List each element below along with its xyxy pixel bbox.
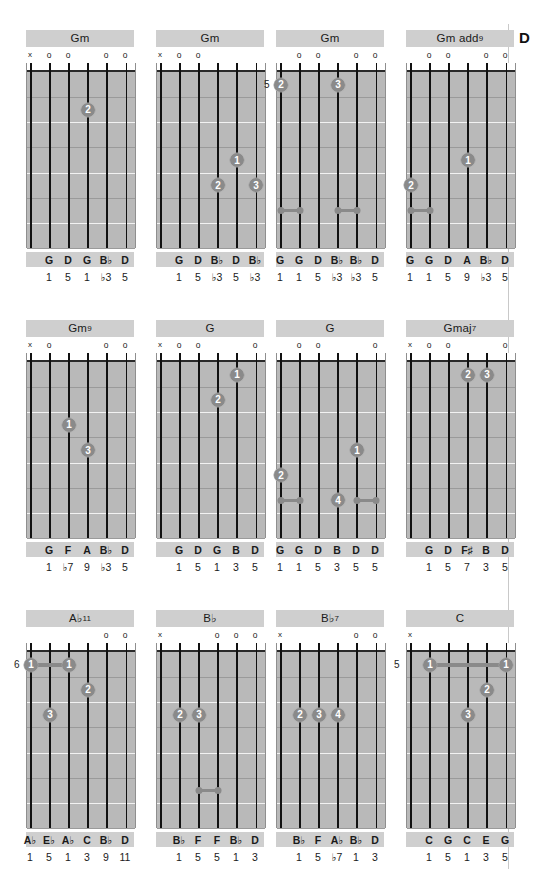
fretboard: 23 [156,643,266,828]
open-string-marker: o [503,51,508,60]
interval-degree: ♭7 [332,851,343,862]
note-name: G [175,544,183,555]
note-name-row: GDGB♭D [26,252,134,267]
note-name: G [425,254,433,265]
interval-degree: 1 [233,851,239,862]
open-string-marker: o [427,341,432,350]
guitar-string [410,63,413,248]
nut [277,63,385,72]
open-string-marker: o [316,51,321,60]
interval-degree-row: 15135 [156,559,264,574]
note-name: G [425,544,433,555]
note-name: D [371,834,379,845]
interval-degree: 5 [502,561,508,572]
finger-dot: 2 [480,682,495,697]
note-name: G [501,834,509,845]
note-name: F [315,834,321,845]
interval-degree-row: 15♭713 [276,849,384,864]
open-string-marker: o [104,51,109,60]
chord-title: Gm [26,30,134,47]
guitar-string [429,353,431,538]
guitar-string [217,63,219,248]
muted-string-marker: x [278,631,282,639]
interval-degree: 3 [84,851,90,862]
fret-line [157,727,265,728]
open-string-markers: xoo [270,630,390,643]
note-name: D [501,544,509,555]
fret-line [277,97,385,98]
guitar-string [160,63,163,248]
note-name: C [425,834,433,845]
interval-degree: 5 [315,851,321,862]
guitar-string [280,643,283,828]
interval-degree: 5 [195,561,201,572]
fret-line [157,223,265,224]
guitar-string [486,643,487,828]
interval-degree-row: 115♭3♭35 [276,269,384,284]
interval-degree: 5 [445,271,451,282]
interval-degree: 7 [464,561,470,572]
finger-dot: 1 [350,443,365,458]
fret-line [157,147,265,148]
fretboard: 12 [156,353,266,538]
interval-degree: ♭3 [101,271,112,282]
guitar-string [198,643,200,828]
note-name: B♭ [331,254,344,265]
guitar-string [506,63,507,248]
open-string-marker: o [66,51,71,60]
chord-title: Gm [156,30,264,47]
note-name: D [194,254,202,265]
note-name: B♭ [100,254,113,265]
chord-title-root: Gmaj [444,323,472,335]
nut [27,643,135,652]
barre-endpoint-dot [297,497,304,504]
fretboard: 124 [276,353,386,538]
open-string-marker: o [123,51,128,60]
interval-degree-row: 1513911 [26,849,134,864]
fret-line [277,437,385,438]
interval-degree: 3 [372,851,378,862]
guitar-string [337,353,339,538]
interval-degree: ♭3 [250,271,261,282]
open-string-marker: o [47,341,52,350]
interval-degree: 1 [214,561,220,572]
fret-line [27,173,135,174]
open-string-marker: o [446,51,451,60]
interval-degree: 1 [46,271,52,282]
fret-position-number: 5 [264,80,270,90]
fret-line [277,488,385,489]
finger-dot: 2 [274,77,289,92]
fret-line [27,198,135,199]
guitar-string [179,63,181,248]
fret-line [407,412,515,413]
open-string-marker: o [104,631,109,640]
fret-line [407,248,515,249]
barre-endpoint-dot [215,787,222,794]
note-name: D [501,254,509,265]
fret-line [157,437,265,438]
interval-degree-row: 115355 [276,559,384,574]
guitar-string [299,643,301,828]
note-name: D [314,254,322,265]
finger-dot: 1 [461,153,476,168]
guitar-string [179,643,181,828]
chord-title: Gmaj7 [406,320,514,337]
barre-endpoint-dot [278,207,285,214]
fret-line [407,223,515,224]
interval-degree: 1 [426,561,432,572]
nut [277,353,385,362]
finger-dot: 3 [480,367,495,382]
note-name: G [213,544,221,555]
finger-dot: 1 [62,657,77,672]
fret-line [277,198,385,199]
finger-dot: 3 [312,707,327,722]
finger-dot: 2 [461,367,476,382]
fret-line [27,538,135,539]
open-string-marker: o [503,341,508,350]
open-string-marker: o [196,341,201,350]
note-name: C [83,834,91,845]
interval-degree: 1 [176,851,182,862]
guitar-string [160,353,163,538]
chord-title-root: B♭ [321,613,335,625]
interval-degree-row: 15♭35♭3 [156,269,264,284]
